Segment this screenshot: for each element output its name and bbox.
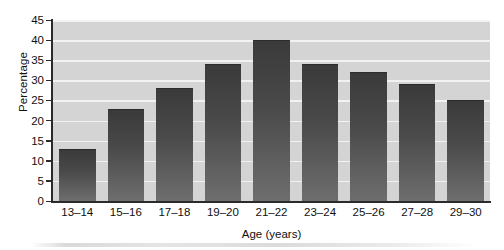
y-axis-tick-label: 40 [31, 34, 44, 46]
y-axis-tick-label: 5 [38, 175, 44, 187]
bar [399, 84, 436, 201]
y-axis: 051015202530354045 [0, 0, 52, 250]
x-axis-tick-label: 19–20 [199, 206, 248, 218]
x-axis-labels: 13–1415–1617–1819–2021–2223–2425–2627–28… [53, 206, 490, 224]
x-axis-tick-label: 17–18 [150, 206, 199, 218]
x-axis-title: Age (years) [53, 228, 490, 240]
x-axis-tick-label: 13–14 [53, 206, 102, 218]
bar [59, 149, 96, 201]
y-axis-tick-label: 10 [31, 155, 44, 167]
bar-chart-figure: Percentage 051015202530354045 13–1415–16… [0, 0, 504, 250]
y-axis-tick-label: 0 [38, 195, 44, 207]
bar [302, 64, 339, 201]
y-axis-tick-label: 20 [31, 115, 44, 127]
bar [156, 88, 193, 201]
y-axis-tick-label: 35 [31, 54, 44, 66]
x-axis-line [51, 201, 491, 203]
x-axis-tick-label: 21–22 [247, 206, 296, 218]
x-axis-tick-label: 23–24 [296, 206, 345, 218]
scan-artifact [30, 243, 480, 247]
bar [350, 72, 387, 201]
gridline [53, 20, 490, 22]
x-axis-tick-label: 25–26 [344, 206, 393, 218]
x-axis-tick-label: 15–16 [102, 206, 151, 218]
bar [447, 100, 484, 201]
y-axis-tick-label: 45 [31, 14, 44, 26]
plot-area [53, 20, 490, 201]
bar [108, 109, 145, 202]
bar [205, 64, 242, 201]
x-axis-tick-label: 27–28 [393, 206, 442, 218]
y-axis-tick-label: 30 [31, 74, 44, 86]
y-axis-tick-label: 15 [31, 135, 44, 147]
x-axis-tick-label: 29–30 [441, 206, 490, 218]
bar [253, 40, 290, 201]
y-axis-tick-label: 25 [31, 94, 44, 106]
